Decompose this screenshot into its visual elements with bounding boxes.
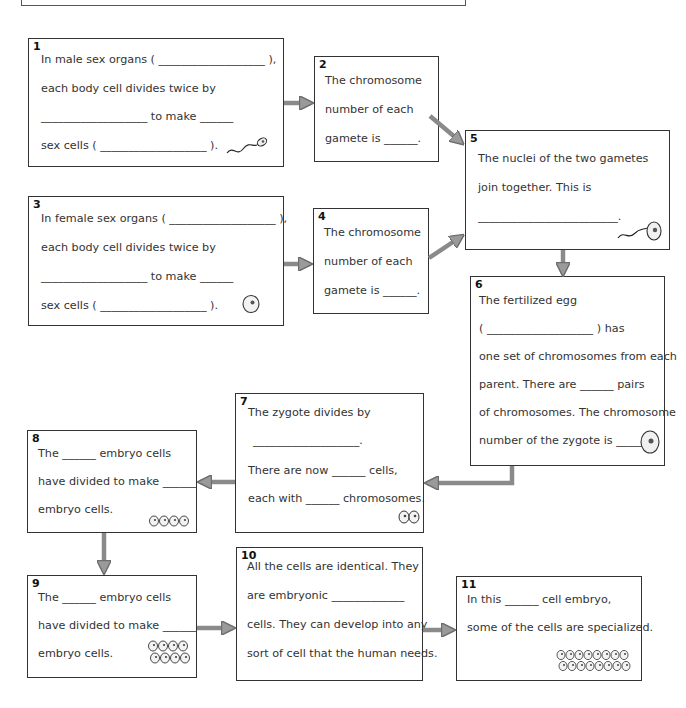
arrow-2-to-5 <box>430 116 462 143</box>
flow-arrows <box>0 0 686 708</box>
arrow-4-to-5 <box>429 236 462 258</box>
arrow-6-to-7 <box>427 466 512 483</box>
